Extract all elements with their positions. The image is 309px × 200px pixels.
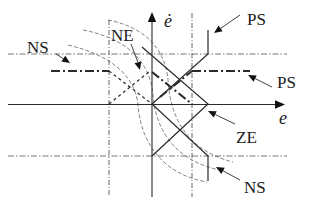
label-ns-left: NS — [27, 38, 49, 57]
e-dot-axis-arrow-icon — [148, 12, 156, 22]
ns-bottom-pointer-icon — [216, 167, 225, 174]
ps-top-pointer-icon — [214, 26, 223, 34]
label-ps-right: PS — [277, 73, 296, 92]
phase-plane-diagram: ė e PS PS NS NE ZE NS — [0, 0, 309, 200]
e-axis — [8, 100, 285, 108]
ns-left-pointer-icon — [61, 56, 70, 63]
annotation-arrows — [56, 15, 272, 180]
label-ns-bottom: NS — [244, 178, 266, 197]
label-ne: NE — [111, 26, 134, 45]
label-ze: ZE — [236, 128, 257, 147]
label-ps-top: PS — [247, 10, 266, 29]
e-dot-axis-label: ė — [164, 11, 172, 31]
ne-pointer-icon — [135, 61, 142, 70]
e-axis-label: e — [279, 108, 287, 128]
shifted-switching-lines — [51, 71, 250, 104]
